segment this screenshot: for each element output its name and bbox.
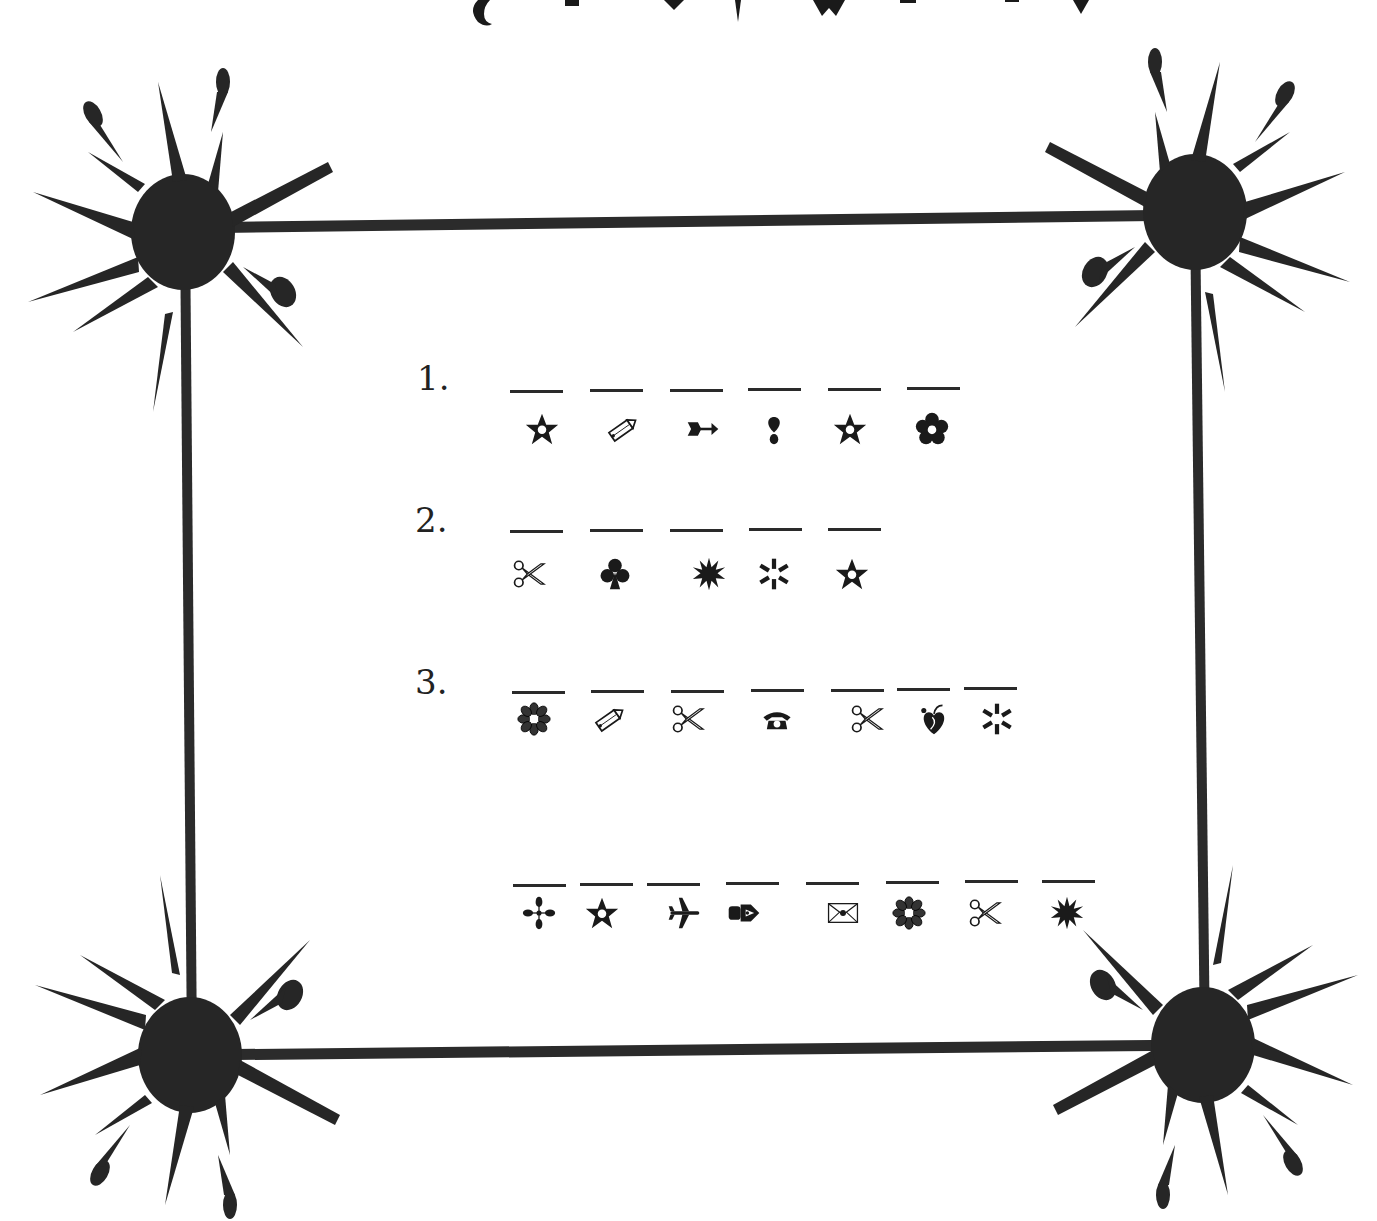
star-outline-icon xyxy=(585,896,619,930)
answer-blank xyxy=(671,690,724,693)
answer-blank xyxy=(513,884,566,887)
drop-exclaim-icon xyxy=(757,412,791,446)
answer-blank xyxy=(726,882,779,885)
star-outline-icon xyxy=(833,412,867,446)
answer-blank xyxy=(670,529,723,532)
answer-blank xyxy=(590,389,643,392)
answer-blank xyxy=(591,690,644,693)
asterisk-spark-icon xyxy=(757,557,791,591)
answer-blank xyxy=(647,883,700,886)
telephone-icon xyxy=(760,702,794,736)
flower-outline-icon xyxy=(892,896,926,930)
cross-dots-icon xyxy=(522,896,556,930)
envelope-icon xyxy=(826,896,860,930)
question-number: 3. xyxy=(415,662,447,702)
answer-blank xyxy=(590,529,643,532)
answer-blank xyxy=(512,691,565,694)
splat-frame xyxy=(0,0,1377,1221)
scissors-icon xyxy=(512,557,546,591)
answer-blank xyxy=(886,881,939,884)
answer-blank xyxy=(748,388,801,391)
flower-filled-icon xyxy=(915,412,949,446)
club-icon xyxy=(598,557,632,591)
star-outline-icon xyxy=(525,412,559,446)
answer-blank xyxy=(670,389,723,392)
starburst-icon xyxy=(1050,896,1084,930)
question-number: 1. xyxy=(417,358,449,398)
star-outline-icon xyxy=(835,557,869,591)
starburst-icon xyxy=(692,557,726,591)
answer-blank xyxy=(806,882,859,885)
answer-blank xyxy=(510,530,563,533)
answer-blank xyxy=(828,528,881,531)
answer-blank xyxy=(965,880,1018,883)
flower-outline-icon xyxy=(517,702,551,736)
scissors-icon xyxy=(968,896,1002,930)
answer-blank xyxy=(1042,880,1095,883)
airplane-icon xyxy=(667,896,701,930)
asterisk-spark-icon xyxy=(980,702,1014,736)
answer-blank xyxy=(831,689,884,692)
question-number: 2. xyxy=(415,500,447,540)
answer-blank xyxy=(828,388,881,391)
pencil-icon xyxy=(593,702,627,736)
apple-heart-icon xyxy=(917,702,951,736)
answer-blank xyxy=(749,528,802,531)
answer-blank xyxy=(510,390,563,393)
scissors-icon xyxy=(850,702,884,736)
pen-nib-icon xyxy=(727,896,761,930)
answer-blank xyxy=(751,689,804,692)
answer-blank xyxy=(580,883,633,886)
pencil-icon xyxy=(606,412,640,446)
answer-blank xyxy=(964,687,1017,690)
arrow-icon xyxy=(686,412,720,446)
scissors-icon xyxy=(671,702,705,736)
answer-blank xyxy=(897,688,950,691)
answer-blank xyxy=(907,387,960,390)
